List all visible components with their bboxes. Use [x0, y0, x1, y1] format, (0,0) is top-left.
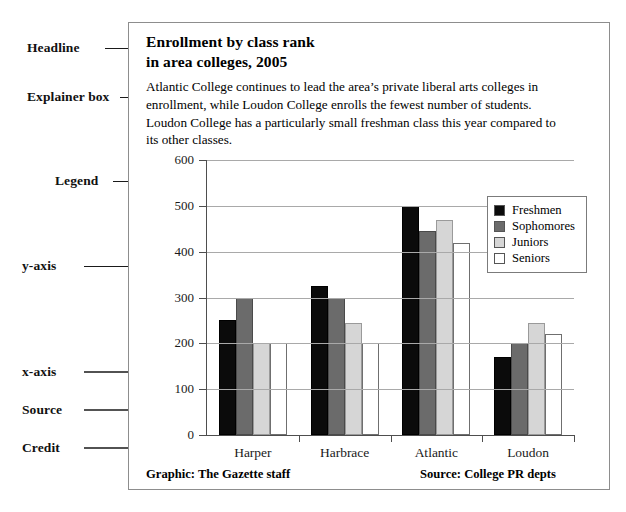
gridline [207, 298, 574, 299]
bar [545, 334, 562, 435]
legend-item-label: Seniors [512, 252, 550, 265]
x-axis-tick [482, 435, 483, 442]
bar [219, 320, 236, 435]
legend-item: Freshmen [494, 203, 580, 218]
bar [419, 231, 436, 435]
x-axis-category-label: Atlantic [415, 445, 459, 461]
legend-swatch-icon [494, 205, 505, 216]
legend-swatch-icon [494, 253, 505, 264]
y-axis-tick [199, 389, 207, 390]
y-axis-tick-label: 600 [130, 152, 194, 168]
annotation-headline-label: Headline [27, 41, 80, 55]
y-axis-tick [199, 435, 207, 436]
y-axis-tick [199, 298, 207, 299]
headline-line-1: Enrollment by class rank [146, 32, 476, 52]
y-axis-tick-labels: 0100200300400500600 [128, 160, 194, 436]
legend-swatch-icon [494, 237, 505, 248]
credit-line: Graphic: The Gazette staff [146, 467, 290, 482]
bar [528, 323, 545, 435]
legend-item-label: Sophomores [512, 220, 575, 233]
gridline [207, 343, 574, 344]
legend-item: Sophomores [494, 219, 580, 234]
bar [453, 243, 470, 436]
legend-item: Juniors [494, 235, 580, 250]
page-title: Enrollment by class rank in area college… [146, 32, 476, 72]
source-line: Source: College PR depts [420, 467, 556, 482]
y-axis-tick [199, 252, 207, 253]
y-axis-tick-label: 100 [130, 381, 194, 397]
headline-line-2: in area colleges, 2005 [146, 52, 476, 72]
y-axis-tick-label: 200 [130, 335, 194, 351]
bar [402, 206, 419, 435]
annotation-explainer-box-label: Explainer box [27, 90, 109, 104]
y-axis-tick [199, 343, 207, 344]
annotation-legend-label: Legend [55, 174, 98, 188]
bar [345, 323, 362, 435]
y-axis-tick [199, 206, 207, 207]
x-axis-tick [299, 435, 300, 442]
gridline [207, 389, 574, 390]
legend-item-label: Freshmen [512, 204, 562, 217]
y-axis-tick-label: 0 [130, 427, 194, 443]
x-axis-category-label: Harbrace [320, 445, 369, 461]
legend-swatch-icon [494, 221, 505, 232]
x-axis-tick [391, 435, 392, 442]
legend: FreshmenSophomoresJuniorsSeniors [487, 196, 587, 273]
annotation-source-label: Source [22, 403, 62, 417]
legend-item-label: Juniors [512, 236, 548, 249]
annotation-credit-label: Credit [22, 441, 60, 455]
bar [328, 298, 345, 436]
explainer-box: Atlantic College continues to lead the a… [146, 78, 566, 149]
bar [494, 357, 511, 435]
x-axis-category-label: Harper [234, 445, 271, 461]
x-axis-tick [574, 435, 575, 442]
y-axis-tick-label: 300 [130, 290, 194, 306]
gridline [207, 160, 574, 161]
y-axis-tick-label: 400 [130, 244, 194, 260]
x-axis-category-label: Loudon [507, 445, 549, 461]
bar [236, 298, 253, 436]
y-axis-tick [199, 160, 207, 161]
bar [311, 286, 328, 435]
annotation-x-axis-label: x-axis [22, 365, 56, 379]
graphic-canvas: Headline Explainer box Legend y-axis x-a… [0, 0, 626, 512]
legend-item: Seniors [494, 251, 580, 266]
annotation-y-axis-label: y-axis [22, 259, 56, 273]
y-axis-tick-label: 500 [130, 198, 194, 214]
